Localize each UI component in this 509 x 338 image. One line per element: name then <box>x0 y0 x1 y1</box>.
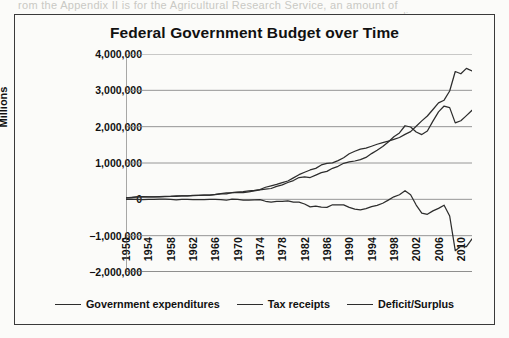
series-line-0 <box>126 68 472 197</box>
series-line-1 <box>126 106 472 198</box>
legend-item[interactable]: Deficit/Surplus <box>347 298 454 310</box>
legend-swatch-line-icon <box>55 304 81 305</box>
chart-title: Federal Government Budget over Time <box>15 24 494 42</box>
plot-area <box>126 54 472 272</box>
legend-label: Tax receipts <box>268 298 330 310</box>
legend-item[interactable]: Government expenditures <box>55 298 220 310</box>
legend-label: Government expenditures <box>86 298 220 310</box>
y-axis-label: Millions <box>0 67 9 147</box>
legend-label: Deficit/Surplus <box>378 298 454 310</box>
chart-frame: Federal Government Budget over Time Mill… <box>14 14 495 325</box>
chart-legend: Government expendituresTax receiptsDefic… <box>15 298 494 310</box>
legend-swatch-line-icon <box>347 304 373 305</box>
legend-swatch-line-icon <box>237 304 263 305</box>
page-bleed-through-text-top: rom the Appendix II is for the Agricultu… <box>18 0 398 11</box>
plot-svg <box>126 54 472 272</box>
legend-item[interactable]: Tax receipts <box>237 298 330 310</box>
